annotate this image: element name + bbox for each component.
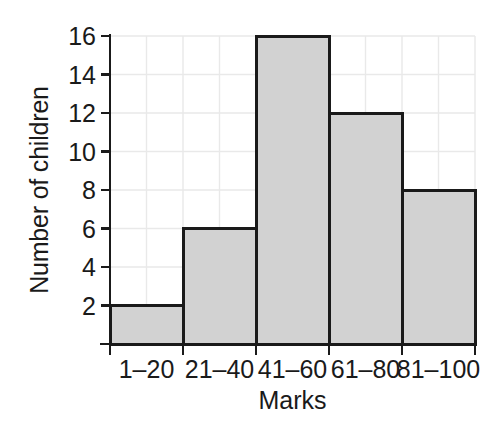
- bar[interactable]: [183, 229, 256, 345]
- plot-area: [0, 0, 496, 434]
- bar[interactable]: [110, 306, 183, 345]
- bar[interactable]: [256, 36, 329, 344]
- y-axis-ticks: [101, 36, 110, 306]
- histogram-chart: Number of children 246810121416 1–2021–4…: [0, 0, 496, 434]
- x-axis-ticks: [110, 344, 475, 355]
- bar[interactable]: [329, 113, 402, 344]
- bar[interactable]: [402, 190, 475, 344]
- x-axis-title: Marks: [110, 388, 475, 413]
